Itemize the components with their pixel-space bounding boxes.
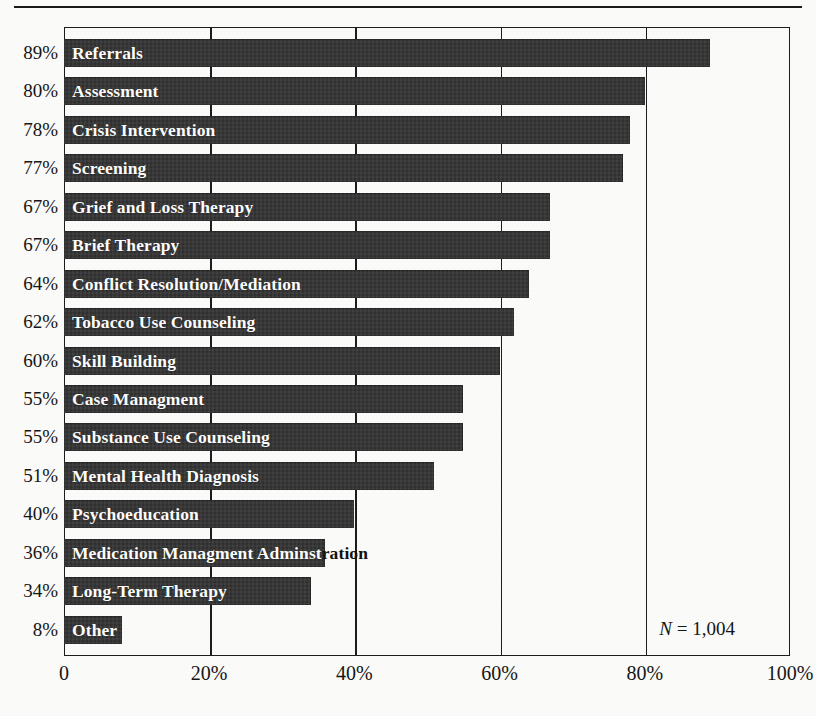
bar-value-label: 64% [0, 270, 58, 298]
bar-row: Substance Use Counseling [64, 423, 790, 451]
bar-row: Tobacco Use Counseling [64, 308, 790, 336]
bar-value-label: 34% [0, 577, 58, 605]
sample-size-symbol: N [659, 618, 672, 639]
x-tick-label: 40% [336, 662, 373, 685]
bar-category-label: Conflict Resolution/Mediation [72, 270, 301, 298]
bar [64, 39, 710, 67]
bar-value-label: 67% [0, 231, 58, 259]
bar-value-label: 80% [0, 77, 58, 105]
x-tick-label: 20% [191, 662, 228, 685]
bar-category-label: Substance Use Counseling [72, 423, 270, 451]
bar-row: Conflict Resolution/Mediation [64, 270, 790, 298]
bar-value-label: 60% [0, 347, 58, 375]
bar-row: Assessment [64, 77, 790, 105]
bar-category-label: Psychoeducation [72, 500, 199, 528]
bar-category-label: Case Managment [72, 385, 204, 413]
bar-category-label: Tobacco Use Counseling [72, 308, 255, 336]
bar-value-label: 62% [0, 308, 58, 336]
bar-row: Brief Therapy [64, 231, 790, 259]
bar-category-label: Brief Therapy [72, 231, 179, 259]
bar-value-label: 55% [0, 385, 58, 413]
bar-row: Grief and Loss Therapy [64, 193, 790, 221]
bar-row: Referrals [64, 39, 790, 67]
bar-category-label: Referrals [72, 39, 143, 67]
bar-category-label: Other [72, 616, 117, 644]
bar-category-label: Long-Term Therapy [72, 577, 227, 605]
bar-row: Case Managment [64, 385, 790, 413]
x-tick-label: 60% [481, 662, 518, 685]
bar-value-label: 67% [0, 193, 58, 221]
bar-value-label: 89% [0, 39, 58, 67]
bar-category-label: Medication Managment Adminstration [72, 539, 368, 567]
bar-value-label: 36% [0, 539, 58, 567]
bar-category-label: Screening [72, 154, 146, 182]
bar-label-overflow: ration [322, 543, 368, 563]
bar-value-label: 55% [0, 423, 58, 451]
x-tick-label: 80% [626, 662, 663, 685]
bar-row: Crisis Intervention [64, 116, 790, 144]
bar-row: Mental Health Diagnosis [64, 462, 790, 490]
bar-category-label: Grief and Loss Therapy [72, 193, 253, 221]
x-tick-label: 0 [59, 662, 69, 685]
bar-value-label: 40% [0, 500, 58, 528]
bar-row: Psychoeducation [64, 500, 790, 528]
bar-chart: ReferralsAssessmentCrisis InterventionSc… [0, 0, 816, 716]
bar-row: Medication Managment Adminstration [64, 539, 790, 567]
page-canvas: ReferralsAssessmentCrisis InterventionSc… [0, 0, 816, 716]
bar-label-inside: Medication Managment Adminst [72, 543, 322, 563]
bar-value-label: 51% [0, 462, 58, 490]
bar-rows: ReferralsAssessmentCrisis InterventionSc… [64, 27, 790, 656]
bar-value-label: 77% [0, 154, 58, 182]
bar-category-label: Assessment [72, 77, 159, 105]
bar-row: Skill Building [64, 347, 790, 375]
bar-category-label: Mental Health Diagnosis [72, 462, 259, 490]
bar-value-label: 78% [0, 116, 58, 144]
sample-size-annotation: N = 1,004 [659, 618, 735, 640]
bar-category-label: Skill Building [72, 347, 176, 375]
bar-category-label: Crisis Intervention [72, 116, 215, 144]
bar-value-label: 8% [0, 616, 58, 644]
bar [64, 154, 623, 182]
x-tick-label: 100% [767, 662, 814, 685]
bar-row: Screening [64, 154, 790, 182]
sample-size-value: = 1,004 [672, 618, 735, 639]
bar-row: Long-Term Therapy [64, 577, 790, 605]
